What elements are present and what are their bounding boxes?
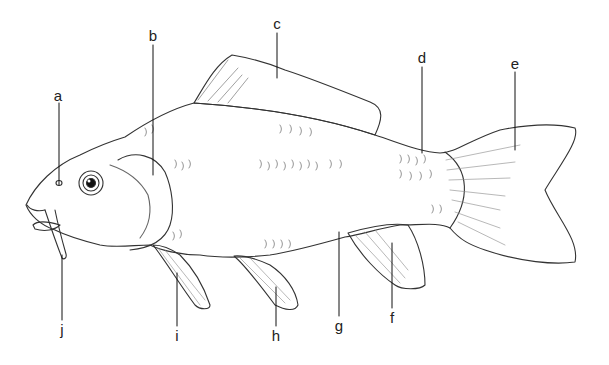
label-b: b — [149, 28, 157, 43]
label-c: c — [273, 16, 281, 31]
label-d: d — [418, 50, 426, 65]
label-i: i — [175, 328, 178, 343]
dorsal-fin — [194, 55, 381, 135]
label-f: f — [390, 310, 394, 325]
pectoral-fin — [153, 245, 210, 309]
label-a: a — [54, 88, 62, 103]
pelvic-fin — [234, 256, 298, 310]
label-h: h — [272, 328, 280, 343]
barbel — [45, 210, 66, 259]
label-g: g — [335, 318, 343, 333]
label-e: e — [511, 56, 519, 71]
label-j: j — [60, 322, 63, 337]
caudal-fin — [445, 152, 464, 228]
